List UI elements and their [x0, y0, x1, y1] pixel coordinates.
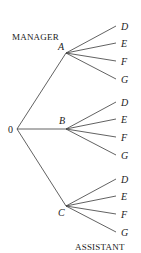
leaf-label-a-g: G: [121, 74, 128, 85]
leaf-label-c-d: D: [120, 174, 129, 185]
edge-c-to-d: [66, 179, 116, 206]
root-node-label: 0: [8, 124, 13, 135]
edge-a-to-e: [66, 43, 116, 53]
leaf-label-a-e: E: [120, 38, 127, 49]
edge-a-to-d: [66, 26, 116, 53]
tree-diagram: MANAGER ASSISTANT 0 A B C DEFGDEFGDEFG: [0, 0, 141, 253]
leaf-label-a-f: F: [120, 56, 128, 67]
edge-c-to-e: [66, 196, 116, 206]
edge-root-to-c: [17, 129, 66, 206]
leaf-label-a-d: D: [120, 21, 129, 32]
leaf-label-b-e: E: [120, 114, 127, 125]
node-b-label: B: [59, 115, 65, 126]
leaf-label-b-f: F: [120, 132, 128, 143]
edges: [17, 26, 116, 232]
leaf-label-c-g: G: [121, 227, 128, 238]
leaf-labels: DEFGDEFGDEFG: [120, 21, 129, 238]
node-c-label: C: [58, 207, 65, 218]
leaf-label-c-f: F: [120, 209, 128, 220]
leaf-label-b-d: D: [120, 97, 129, 108]
leaf-label-b-g: G: [121, 150, 128, 161]
manager-label: MANAGER: [12, 32, 59, 42]
edge-b-to-e: [66, 119, 116, 129]
assistant-label: ASSISTANT: [75, 242, 125, 252]
node-a-label: A: [57, 41, 65, 52]
leaf-label-c-e: E: [120, 191, 127, 202]
edge-b-to-d: [66, 102, 116, 129]
